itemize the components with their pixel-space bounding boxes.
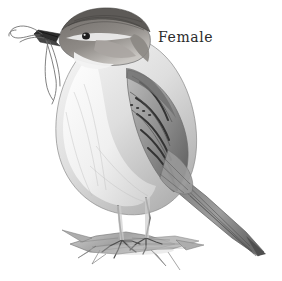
eye (82, 32, 90, 39)
sparrow-drawing (0, 0, 282, 281)
caption-female: Female (158, 30, 213, 44)
ground-shadow (90, 245, 174, 255)
bird-illustration-plate: Female (0, 0, 282, 281)
